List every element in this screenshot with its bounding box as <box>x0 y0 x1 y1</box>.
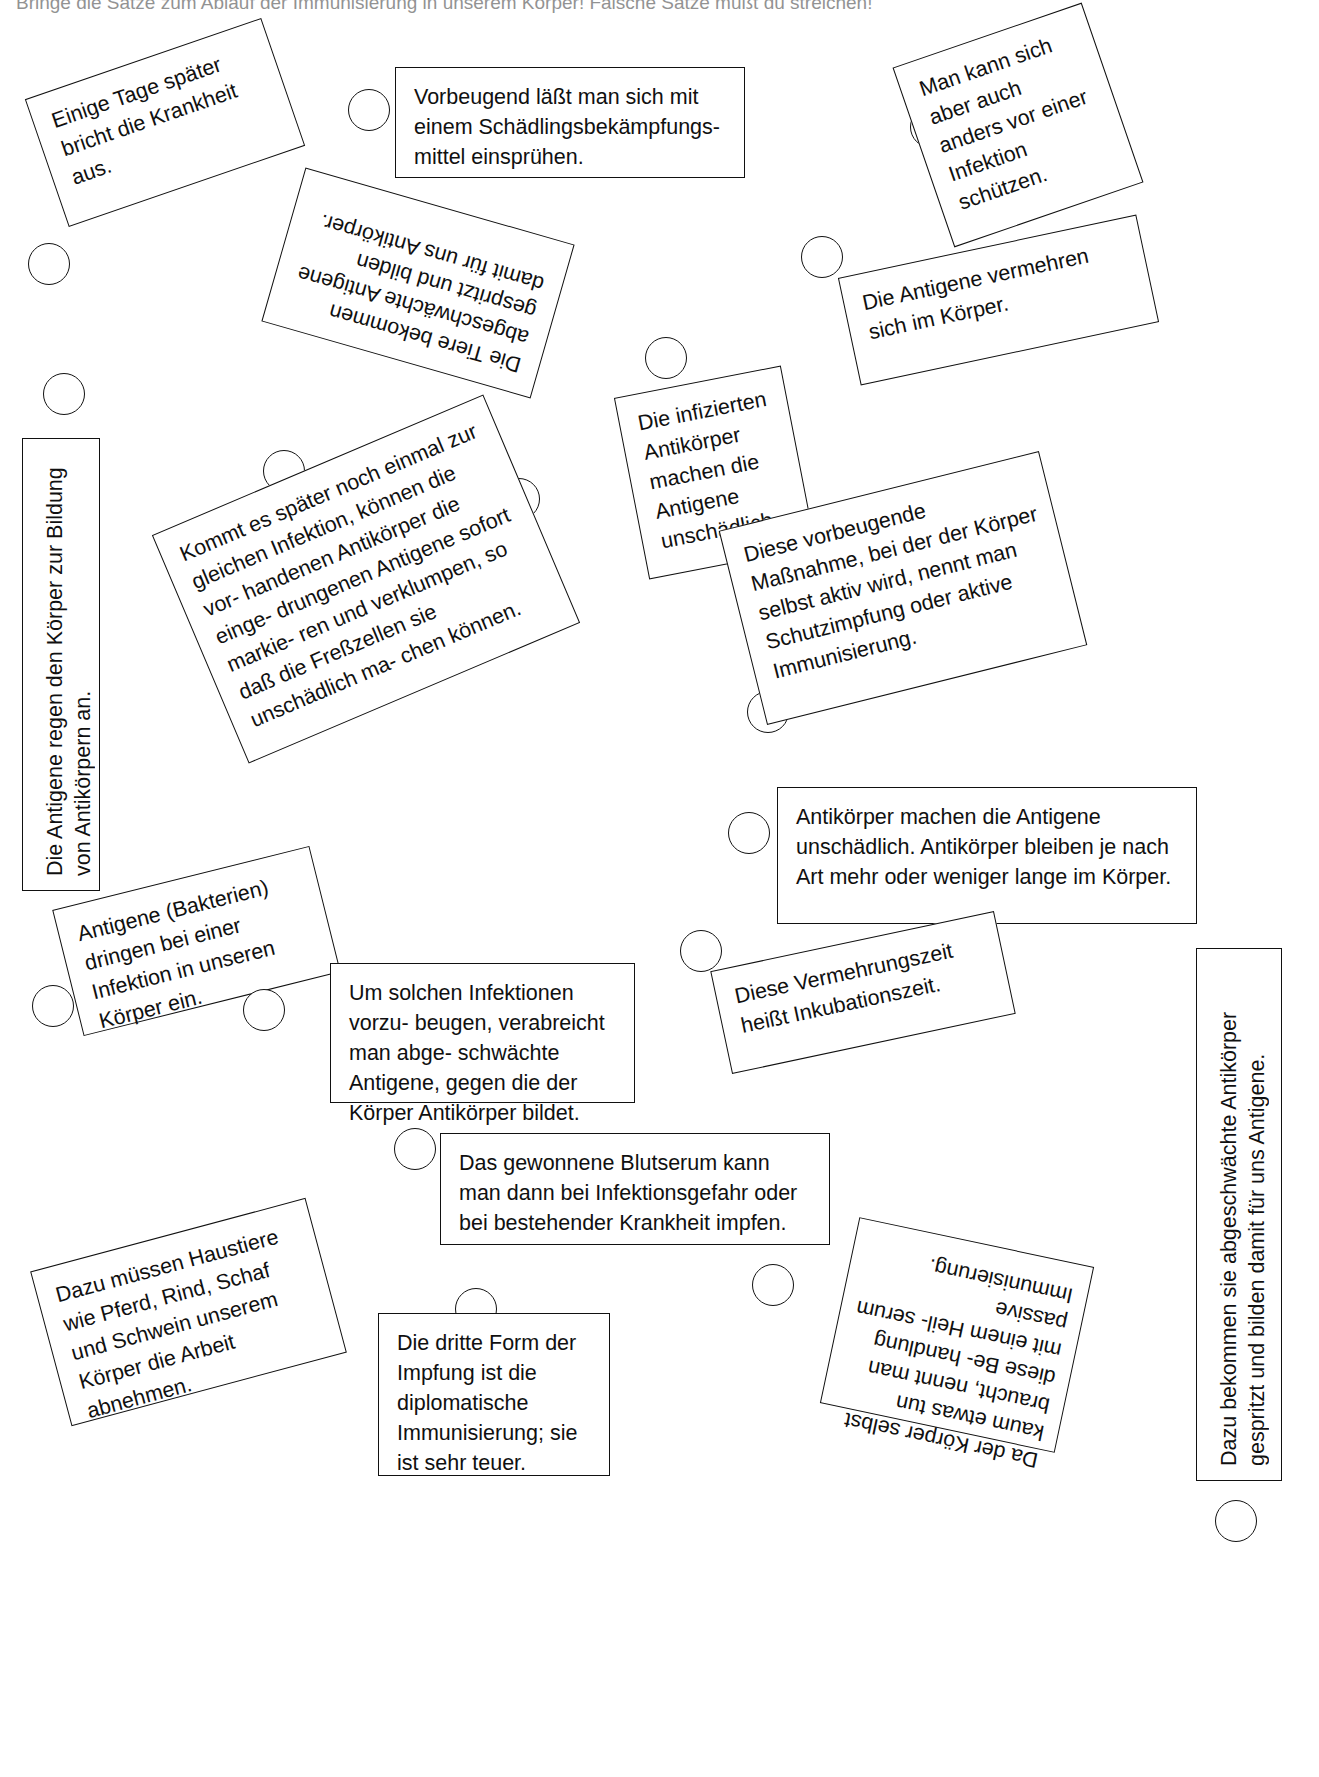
circle-bullet-icon[interactable] <box>728 812 770 854</box>
sentence-card-text: Antikörper machen die Antigene unschädli… <box>796 805 1171 889</box>
sentence-card-text: Einige Tage später bricht die Krankheit … <box>49 52 241 189</box>
sentence-card-text: Diese Vermehrungszeit heißt Inkubationsz… <box>733 939 955 1038</box>
circle-bullet-icon[interactable] <box>28 243 70 285</box>
sentence-card[interactable]: Da der Körper selbst kaum etwas tun brau… <box>820 1217 1094 1453</box>
sentence-card-text: Die Antigene vermehren sich im Körper. <box>860 244 1091 345</box>
worksheet-instruction: Bringe die Sätze zum Ablauf der Immunisi… <box>16 0 1306 15</box>
sentence-card-text: Um solchen Infektionen vorzu- beugen, ve… <box>349 981 605 1125</box>
sentence-card[interactable]: Um solchen Infektionen vorzu- beugen, ve… <box>330 963 635 1103</box>
sentence-card[interactable]: Kommt es später noch einmal zur gleichen… <box>152 395 580 764</box>
sentence-card[interactable]: Die Antigene regen den Körper zur Bildun… <box>22 438 100 891</box>
circle-bullet-icon[interactable] <box>1215 1500 1257 1542</box>
circle-bullet-icon[interactable] <box>32 985 74 1027</box>
sentence-card[interactable]: Dazu müssen Haustiere wie Pferd, Rind, S… <box>30 1198 347 1426</box>
sentence-card[interactable]: Man kann sich aber auch anders vor einer… <box>893 3 1144 248</box>
sentence-card[interactable]: Das gewonnene Blutserum kann man dann be… <box>440 1133 830 1245</box>
circle-bullet-icon[interactable] <box>43 373 85 415</box>
sentence-card-text: Man kann sich aber auch anders vor einer… <box>916 33 1090 214</box>
sentence-card-text: Die Tiere bekommen abgeschwächte Antigen… <box>295 209 547 377</box>
sentence-card[interactable]: Einige Tage später bricht die Krankheit … <box>25 18 305 227</box>
sentence-card[interactable]: Diese Vermehrungszeit heißt Inkubationsz… <box>710 911 1015 1074</box>
sentence-card[interactable]: Vorbeugend läßt man sich mit einem Schäd… <box>395 67 745 178</box>
sentence-card-text: Da der Körper selbst kaum etwas tun brau… <box>829 1239 1075 1474</box>
worksheet-canvas: Bringe die Sätze zum Ablauf der Immunisi… <box>0 0 1319 1777</box>
circle-bullet-icon[interactable] <box>394 1128 436 1170</box>
sentence-card-text: Die Antigene regen den Körper zur Bildun… <box>41 453 97 876</box>
sentence-card[interactable]: Antikörper machen die Antigene unschädli… <box>777 787 1197 924</box>
sentence-card-text: Vorbeugend läßt man sich mit einem Schäd… <box>414 85 720 169</box>
sentence-card[interactable]: Die dritte Form der Impfung ist die dipl… <box>378 1313 610 1476</box>
sentence-card[interactable]: Dazu bekommen sie abgeschwächte Antikörp… <box>1196 948 1282 1481</box>
circle-bullet-icon[interactable] <box>752 1264 794 1306</box>
sentence-card-text: Dazu müssen Haustiere wie Pferd, Rind, S… <box>53 1225 281 1423</box>
sentence-card-text: Diese vorbeugende Maßnahme, bei der der … <box>741 499 1039 684</box>
sentence-card[interactable]: Die Antigene vermehren sich im Körper. <box>838 214 1159 385</box>
sentence-card-text: Dazu bekommen sie abgeschwächte Antikörp… <box>1215 963 1271 1466</box>
sentence-card-text: Die dritte Form der Impfung ist die dipl… <box>397 1331 577 1475</box>
sentence-card-text: Kommt es später noch einmal zur gleichen… <box>176 419 524 732</box>
circle-bullet-icon[interactable] <box>645 337 687 379</box>
sentence-card[interactable]: Die Tiere bekommen abgeschwächte Antigen… <box>261 168 574 399</box>
circle-bullet-icon[interactable] <box>680 930 722 972</box>
sentence-card-text: Das gewonnene Blutserum kann man dann be… <box>459 1151 797 1235</box>
circle-bullet-icon[interactable] <box>801 236 843 278</box>
circle-bullet-icon[interactable] <box>348 89 390 131</box>
circle-bullet-icon[interactable] <box>243 989 285 1031</box>
